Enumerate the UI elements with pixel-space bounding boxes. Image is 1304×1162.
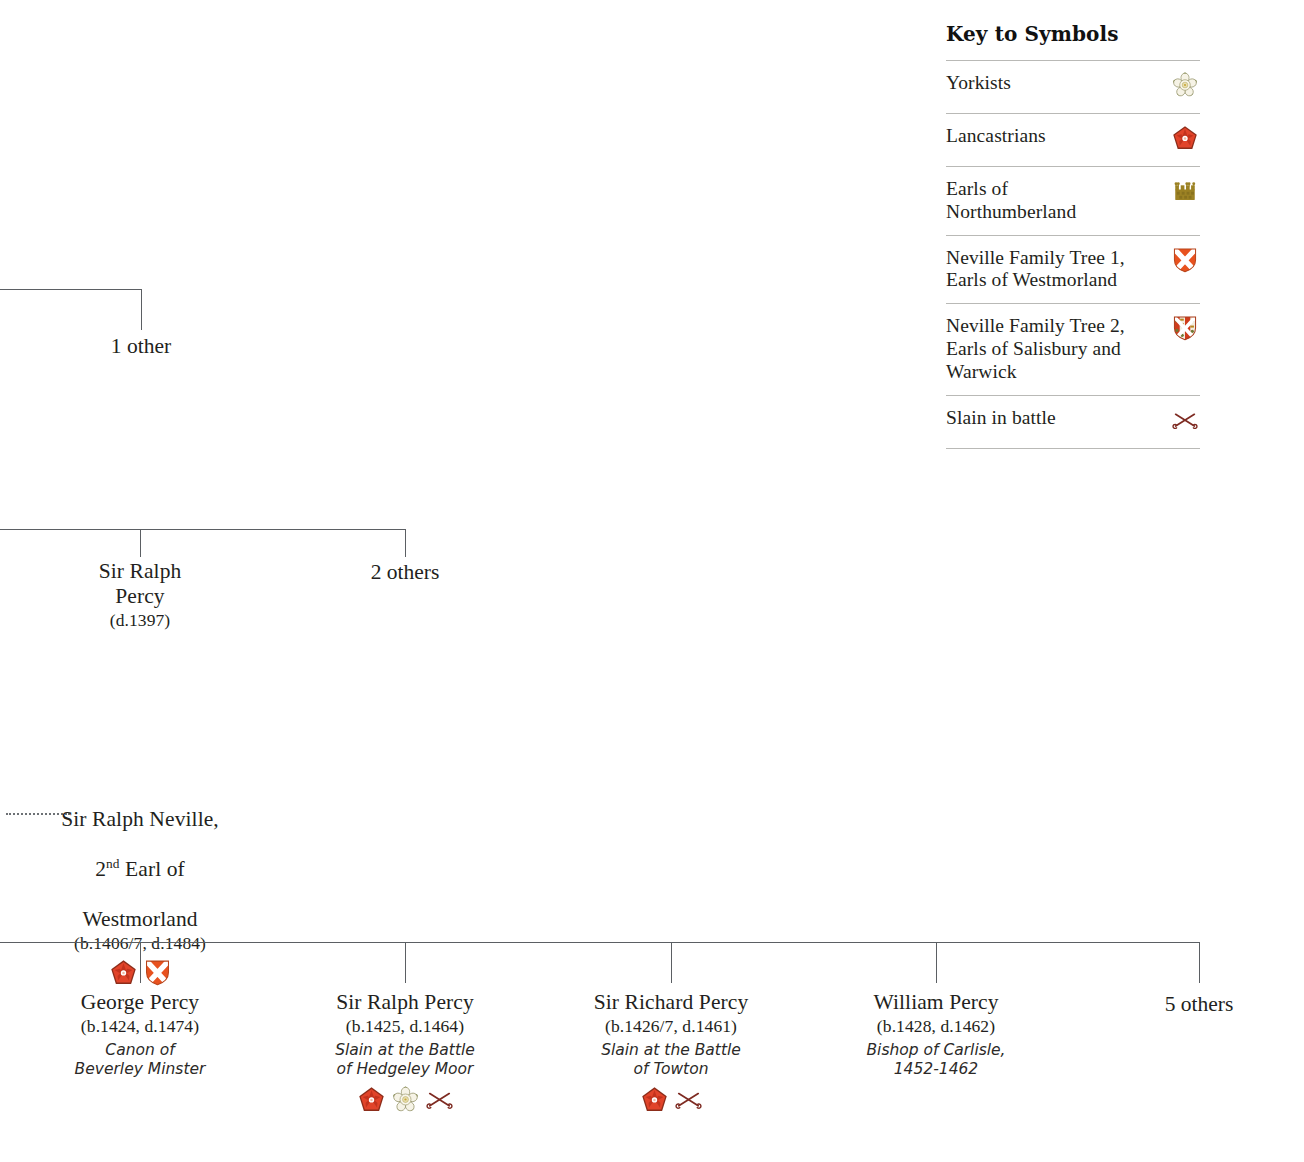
legend-row-neville-salisbury-warwick: Neville Family Tree 2, Earls of Salisbur…: [946, 303, 1200, 394]
node-name: Sir Ralph Percy: [295, 990, 515, 1015]
node-badges: [561, 1088, 781, 1116]
connector-gen1-horizontal: [0, 289, 142, 290]
salisbury-shield-icon: [1170, 315, 1200, 341]
crossed-swords-icon: [1170, 407, 1200, 433]
node-note: Slain at the Battle of Towton: [561, 1041, 781, 1079]
connector-gen4-drop-william: [936, 942, 937, 983]
connector-gen2-drop-ralph: [140, 529, 141, 557]
node-note: Canon of Beverley Minster: [30, 1041, 250, 1079]
node-name: George Percy: [30, 990, 250, 1015]
westmorland-shield-icon: [144, 959, 171, 991]
node-note: Bishop of Carlisle, 1452-1462: [826, 1041, 1046, 1079]
connector-gen4-drop-richard: [671, 942, 672, 983]
connector-gen4-drop-others: [1199, 942, 1200, 983]
node-dates: (d.1397): [40, 610, 240, 630]
legend-row-slain-in-battle: Slain in battle: [946, 395, 1200, 449]
node-name: William Percy: [826, 990, 1046, 1015]
node-badges: [295, 1088, 515, 1116]
node-name-line2-rest: Earl of: [120, 857, 185, 881]
node-name: Sir Ralph Percy: [40, 559, 240, 609]
crown-icon: [1170, 178, 1200, 204]
crossed-swords-icon: [675, 1086, 702, 1118]
connector-gen4-horizontal: [0, 942, 1200, 943]
legend-label: Neville Family Tree 1, Earls of Westmorl…: [946, 247, 1135, 293]
key-to-symbols-panel: Key to Symbols Yorkists: [946, 22, 1200, 449]
legend-label: Earls of Northumberland: [946, 178, 1086, 224]
red-rose-icon: [110, 959, 137, 991]
node-dates: (b.1425, d.1464): [295, 1016, 515, 1036]
node-william-percy: William Percy (b.1428, d.1462) Bishop of…: [826, 990, 1046, 1080]
legend-title: Key to Symbols: [946, 22, 1200, 60]
node-dates: (b.1426/7, d.1461): [561, 1016, 781, 1036]
node-george-percy: George Percy (b.1424, d.1474) Canon of B…: [30, 990, 250, 1080]
white-rose-icon: [1170, 72, 1200, 98]
legend-label: Slain in battle: [946, 407, 1066, 430]
node-dates: (b.1424, d.1474): [30, 1016, 250, 1036]
node-note: Slain at the Battle of Hedgeley Moor: [295, 1041, 515, 1079]
node-name-ordinal-suffix: nd: [106, 856, 120, 871]
node-dates: (b.1428, d.1462): [826, 1016, 1046, 1036]
crossed-swords-icon: [426, 1086, 453, 1118]
legend-label: Yorkists: [946, 72, 1021, 95]
red-rose-icon: [641, 1086, 668, 1118]
connector-gen2-drop-others: [405, 529, 406, 557]
connector-gen4-drop-ralph: [405, 942, 406, 983]
node-name-ordinal: 2: [95, 857, 106, 881]
red-rose-icon: [358, 1086, 385, 1118]
legend-row-yorkists: Yorkists: [946, 60, 1200, 113]
node-2-others: 2 others: [345, 560, 465, 585]
legend-row-earls-of-northumberland: Earls of Northumberland: [946, 166, 1200, 235]
node-name: Sir Richard Percy: [561, 990, 781, 1015]
white-rose-icon: [392, 1086, 419, 1118]
node-sir-ralph-percy-1397: Sir Ralph Percy (d.1397): [40, 559, 240, 630]
red-rose-icon: [1170, 125, 1200, 151]
node-1-other: 1 other: [81, 334, 201, 359]
legend-label: Lancastrians: [946, 125, 1056, 148]
node-sir-ralph-percy-1464: Sir Ralph Percy (b.1425, d.1464) Slain a…: [295, 990, 515, 1116]
connector-gen2-horizontal: [0, 529, 406, 530]
node-5-others: 5 others: [1139, 992, 1259, 1017]
legend-row-neville-westmorland: Neville Family Tree 1, Earls of Westmorl…: [946, 235, 1200, 304]
connector-gen4-drop-george: [140, 942, 141, 983]
node-sir-richard-percy: Sir Richard Percy (b.1426/7, d.1461) Sla…: [561, 990, 781, 1116]
node-name-line3: Westmorland: [82, 907, 197, 931]
legend-label: Neville Family Tree 2, Earls of Salisbur…: [946, 315, 1135, 383]
westmorland-shield-icon: [1170, 247, 1200, 273]
node-name: Sir Ralph Neville, 2nd Earl of Westmorla…: [35, 782, 245, 932]
node-name-line1: Sir Ralph Neville,: [61, 807, 219, 831]
connector-gen1-drop: [141, 289, 142, 330]
legend-row-lancastrians: Lancastrians: [946, 113, 1200, 166]
